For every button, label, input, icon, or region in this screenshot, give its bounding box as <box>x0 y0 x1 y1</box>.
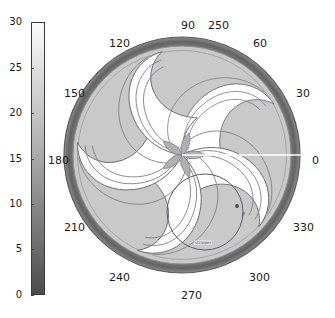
colorbar-tick-0: 0 <box>16 290 22 300</box>
angle-label-300: 300 <box>249 272 270 283</box>
angle-label-210: 210 <box>64 222 85 233</box>
overlay-point-marker <box>235 204 239 208</box>
angle-label-240: 240 <box>109 272 130 283</box>
colorbar-tickmark-10 <box>31 204 34 205</box>
colorbar-tick-15: 15 <box>9 154 22 164</box>
colorbar-tickmark-25 <box>31 68 34 69</box>
polar-contour-svg <box>60 0 335 318</box>
angle-label-330: 330 <box>293 222 314 233</box>
colorbar-tick-5: 5 <box>16 244 22 254</box>
polar-plot: 0306090120150180210240270300330 250 P st… <box>60 0 335 318</box>
angle-label-120: 120 <box>109 38 130 49</box>
colorbar-tickmark-15 <box>31 159 34 160</box>
colorbar-tickmark-30 <box>31 22 34 23</box>
colorbar-tick-10: 10 <box>9 199 22 209</box>
angle-label-0: 0 <box>312 155 319 166</box>
colorbar-tick-20: 20 <box>9 108 22 118</box>
colorbar-tickmark-0 <box>31 295 34 296</box>
colorbar-tick-25: 25 <box>9 63 22 73</box>
angle-label-30: 30 <box>296 88 310 99</box>
figure-canvas: 302520151050 <box>0 0 335 318</box>
point-marker-label: P <box>242 212 245 217</box>
angle-label-60: 60 <box>253 38 267 49</box>
angle-label-270: 270 <box>181 290 202 301</box>
overlay-annotation-label: stripper <box>194 240 212 245</box>
value-label: 250 <box>208 20 229 31</box>
colorbar-tickmark-20 <box>31 113 34 114</box>
colorbar-tickmark-5 <box>31 249 34 250</box>
angle-label-90: 90 <box>181 20 195 31</box>
angle-label-150: 150 <box>64 88 85 99</box>
colorbar-tick-30: 30 <box>9 17 22 27</box>
angle-label-180: 180 <box>48 155 69 166</box>
